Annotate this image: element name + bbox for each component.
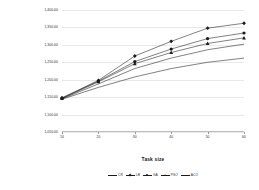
- series-line: [62, 33, 244, 98]
- y-axis-tick-label: 1,050.00: [44, 130, 58, 134]
- x-axis-tick-label: 60: [242, 135, 246, 140]
- data-point-marker: [242, 36, 246, 39]
- y-axis-tick-label: 1,400.00: [44, 8, 58, 12]
- legend-item[interactable]: CR: [108, 173, 123, 177]
- legend-item[interactable]: GA: [143, 173, 158, 177]
- data-point-marker: [170, 47, 173, 50]
- x-axis-tick-mark: [244, 132, 245, 134]
- y-axis-title: Total system cost: [13, 0, 23, 40]
- legend-label: ACO: [191, 173, 198, 177]
- legend-swatch: [108, 174, 117, 177]
- legend-label: PSO: [171, 173, 178, 177]
- x-axis-tick-mark: [62, 132, 63, 134]
- legend-label: LB: [136, 173, 140, 177]
- y-axis-tick-label: 1,100.00: [44, 113, 58, 117]
- x-axis-tick-labels: 102030405060: [62, 135, 244, 143]
- data-point-marker: [242, 31, 245, 34]
- y-axis-tick-label: 1,150.00: [44, 95, 58, 99]
- legend-label: CR: [118, 173, 123, 177]
- series-layer: [62, 10, 244, 132]
- series-line: [62, 44, 244, 99]
- legend-label: GA: [153, 173, 158, 177]
- data-point-marker: [169, 39, 173, 43]
- series-line: [62, 23, 244, 98]
- series-line: [62, 58, 244, 99]
- line-chart: Total system cost 1,400.001,350.001,300.…: [0, 0, 259, 190]
- chart-legend: CRLBGAPSOACO: [62, 173, 244, 177]
- x-axis-title: Task size: [62, 157, 244, 162]
- legend-swatch: [126, 174, 135, 177]
- x-axis-tick-mark: [135, 132, 136, 134]
- y-axis-tick-label: 1,200.00: [44, 78, 58, 82]
- legend-item[interactable]: LB: [126, 173, 140, 177]
- y-axis-tick-labels: 1,400.001,350.001,300.001,250.001,200.00…: [30, 10, 60, 132]
- legend-swatch: [143, 174, 152, 177]
- data-point-marker: [206, 26, 210, 30]
- legend-item[interactable]: PSO: [161, 173, 178, 177]
- x-axis-tick-label: 20: [96, 135, 100, 140]
- x-axis-tick-mark: [98, 132, 99, 134]
- y-axis-tick-label: 1,250.00: [44, 60, 58, 64]
- series-line: [62, 38, 244, 99]
- data-point-marker: [206, 37, 209, 40]
- x-axis-tick-label: 10: [60, 135, 64, 140]
- x-axis-tick-mark: [171, 132, 172, 134]
- data-point-marker: [133, 54, 137, 58]
- legend-item[interactable]: ACO: [181, 173, 198, 177]
- x-axis-tick-label: 50: [206, 135, 210, 140]
- data-point-marker: [242, 21, 246, 25]
- y-axis-tick-label: 1,300.00: [44, 43, 58, 47]
- x-axis-tick-label: 30: [133, 135, 137, 140]
- plot-area: [62, 10, 244, 132]
- x-axis-tick-mark: [208, 132, 209, 134]
- legend-swatch: [161, 174, 170, 177]
- x-axis-tick-label: 40: [169, 135, 173, 140]
- y-axis-tick-label: 1,350.00: [44, 25, 58, 29]
- legend-swatch: [181, 174, 190, 177]
